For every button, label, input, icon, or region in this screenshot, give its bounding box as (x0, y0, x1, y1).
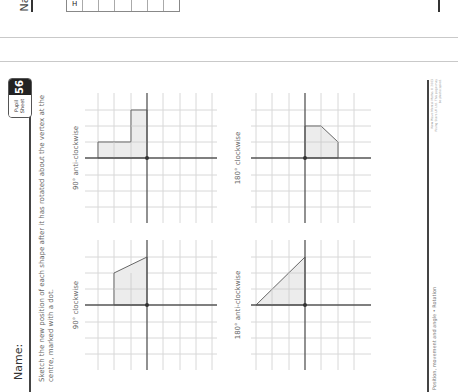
rotation-panel-180-anticlockwise: 180° anti-clockwise (226, 230, 376, 380)
instructions: Sketch the new position of each shape af… (38, 82, 56, 382)
grid-90-clockwise (62, 230, 222, 380)
centre-dot (145, 303, 149, 307)
previous-table-cell (83, 0, 99, 11)
previous-table: H (66, 0, 180, 12)
name-label: Name: (12, 344, 25, 380)
previous-table-cell (164, 0, 179, 11)
centre-dot (303, 303, 307, 307)
header-rule (29, 80, 31, 392)
footer-copyright: New Wave Mental Maths © 2003 Rising Star… (430, 79, 442, 134)
previous-table-cell (99, 0, 115, 11)
page-divider (0, 37, 458, 38)
previous-header-rule (31, 0, 33, 12)
worksheet-page: Name: Pupil Sheet 56 Sketch the new posi… (0, 62, 458, 392)
grid-180-clockwise (226, 83, 376, 233)
rotation-panel-180-clockwise: 180° clockwise (226, 83, 376, 233)
badge-number: 56 (9, 79, 31, 95)
pupil-sheet-badge: Pupil Sheet 56 (8, 78, 32, 118)
previous-name-label: Na (17, 0, 31, 12)
footer-rule (427, 80, 429, 392)
rotation-panel-90-clockwise: 90° clockwise (62, 230, 212, 380)
grid-180-anticlockwise (226, 230, 376, 380)
previous-table-cell (148, 0, 164, 11)
grid-90-anticlockwise (62, 83, 222, 233)
previous-side-rule (438, 0, 440, 12)
previous-table-header: H (67, 0, 83, 11)
rotation-panel-90-anticlockwise: 90° anti-clockwise (62, 83, 212, 233)
footer-topic: Position, movement and angle • Rotation (431, 287, 437, 390)
centre-dot (303, 156, 307, 160)
previous-table-cell (115, 0, 131, 11)
centre-dot (145, 156, 149, 160)
previous-table-cell (132, 0, 148, 11)
previous-page-fragment: Na H (0, 0, 458, 38)
badge-label: Pupil Sheet (9, 95, 31, 117)
